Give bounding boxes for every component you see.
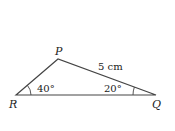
side-length-label: 5 cm xyxy=(98,61,123,72)
vertex-label-r: R xyxy=(8,98,17,111)
angle-arc-r xyxy=(27,85,31,95)
angle-label-r: 40° xyxy=(37,83,55,94)
angle-arc-q xyxy=(133,87,134,95)
triangle-diagram: P R Q 5 cm 40° 20° xyxy=(0,0,175,131)
vertex-label-q: Q xyxy=(152,98,161,111)
vertex-label-p: P xyxy=(54,45,63,58)
angle-label-q: 20° xyxy=(104,83,122,94)
